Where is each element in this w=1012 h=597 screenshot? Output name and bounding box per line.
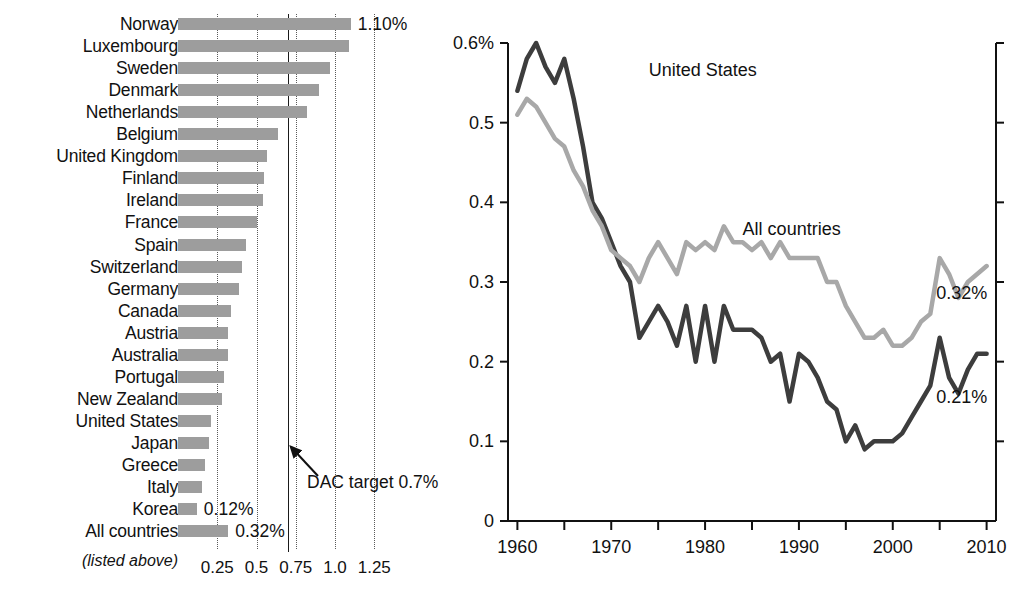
bar-category-label: Sweden xyxy=(116,58,178,78)
bar-chart-row: New Zealand xyxy=(0,389,440,409)
bar-category-label: Germany xyxy=(107,279,178,299)
bar-rect xyxy=(178,216,257,228)
figure-root: Norway1.10%LuxembourgSwedenDenmarkNether… xyxy=(0,0,1012,597)
bar-x-tick-label: 0.75 xyxy=(279,558,312,578)
bar-category-label: France xyxy=(125,212,178,232)
bar-category-label: Japan xyxy=(131,433,178,453)
bar-category-label: Greece xyxy=(122,455,178,475)
bar-chart-row: Finland xyxy=(0,168,440,188)
bar-rect xyxy=(178,261,242,273)
bar-chart-row: Switzerland xyxy=(0,257,440,277)
bar-chart-row: France xyxy=(0,212,440,232)
bar-category-label: United States xyxy=(76,411,178,431)
line-end-value-label: 0.21% xyxy=(936,387,987,408)
bar-chart-row: Portugal xyxy=(0,367,440,387)
bar-rect xyxy=(178,283,239,295)
bar-chart-row: Germany xyxy=(0,279,440,299)
bar-category-label: Denmark xyxy=(108,80,178,100)
bar-rect xyxy=(178,40,349,52)
line-y-tick-label: 0.5 xyxy=(469,112,494,133)
bar-category-label: Spain xyxy=(134,235,178,255)
line-y-tick-label: 0.3 xyxy=(469,272,494,293)
line-x-tick-label: 1960 xyxy=(497,537,537,558)
line-y-tick-label: 0 xyxy=(484,511,494,532)
line-series-united-states xyxy=(517,43,986,449)
bar-category-label: Korea xyxy=(132,499,178,519)
line-y-tick-label: 0.2 xyxy=(469,351,494,372)
bar-chart-row: All countries0.32% xyxy=(0,521,440,541)
bar-category-label: New Zealand xyxy=(77,389,178,409)
bar-category-label: All countries xyxy=(85,521,178,541)
bar-chart-row: Sweden xyxy=(0,58,440,78)
bar-rect xyxy=(178,327,228,339)
bar-category-label: Portugal xyxy=(114,367,178,387)
line-y-tick-label: 0.1 xyxy=(469,431,494,452)
bar-x-tick-label: 0.25 xyxy=(201,558,234,578)
bar-rect xyxy=(178,525,228,537)
bar-value-label: 0.32% xyxy=(235,521,285,541)
bar-rect xyxy=(178,393,222,405)
bar-chart-row: Ireland xyxy=(0,190,440,210)
dac-target-label: DAC target 0.7% xyxy=(307,472,438,493)
bar-rect xyxy=(178,194,263,206)
bar-category-label: Italy xyxy=(147,477,178,497)
bar-category-label: Switzerland xyxy=(90,257,178,277)
bar-chart-row: Norway1.10% xyxy=(0,14,440,34)
bar-chart-row: Canada xyxy=(0,301,440,321)
bar-category-label: Ireland xyxy=(126,190,178,210)
line-chart-series xyxy=(517,43,986,449)
line-x-tick-label: 1980 xyxy=(685,537,725,558)
bar-x-tick-label: 1.25 xyxy=(358,558,391,578)
bar-category-label: Belgium xyxy=(116,124,178,144)
line-chart-svg xyxy=(440,0,1012,597)
line-chart-panel: 00.10.20.30.40.50.6% 1960197019801990200… xyxy=(440,0,1012,597)
bar-chart-row: Japan xyxy=(0,433,440,453)
line-end-value-label: 0.32% xyxy=(936,283,987,304)
line-x-tick-label: 1970 xyxy=(591,537,631,558)
bar-rect xyxy=(178,84,319,96)
bar-chart-row: Netherlands xyxy=(0,102,440,122)
line-series-label: United States xyxy=(649,60,757,81)
bar-value-label: 1.10% xyxy=(358,14,408,34)
bar-category-label: Austria xyxy=(125,323,178,343)
bar-x-tick-label: 1.0 xyxy=(323,558,347,578)
line-series-label: All countries xyxy=(743,219,841,240)
bar-category-label: Canada xyxy=(118,301,178,321)
bar-chart-row: United Kingdom xyxy=(0,146,440,166)
bar-chart-row: Denmark xyxy=(0,80,440,100)
bar-chart-row: Korea0.12% xyxy=(0,499,440,519)
bar-value-label: 0.12% xyxy=(204,499,254,519)
bar-chart-footnote: (listed above) xyxy=(82,552,178,570)
bar-rect xyxy=(178,305,231,317)
bar-category-label: Finland xyxy=(122,168,178,188)
bar-rect xyxy=(178,128,278,140)
bar-chart-row: Spain xyxy=(0,235,440,255)
bar-rect xyxy=(178,371,224,383)
bar-rect xyxy=(178,415,211,427)
bar-rect xyxy=(178,18,351,30)
bar-category-label: Luxembourg xyxy=(83,36,178,56)
bar-category-label: Netherlands xyxy=(86,102,178,122)
bar-rect xyxy=(178,106,307,118)
bar-chart-panel: Norway1.10%LuxembourgSwedenDenmarkNether… xyxy=(0,0,440,597)
line-x-tick-label: 2000 xyxy=(873,537,913,558)
bar-rect xyxy=(178,150,267,162)
bar-category-label: United Kingdom xyxy=(56,146,178,166)
bar-chart-row: Luxembourg xyxy=(0,36,440,56)
bar-rect xyxy=(178,172,264,184)
bar-chart-row: Australia xyxy=(0,345,440,365)
bar-x-tick-label: 0.5 xyxy=(245,558,269,578)
bar-category-label: Norway xyxy=(120,14,178,34)
bar-rect xyxy=(178,62,330,74)
bar-rect xyxy=(178,239,246,251)
line-y-tick-label: 0.4 xyxy=(469,192,494,213)
bar-rect xyxy=(178,481,202,493)
line-y-tick-label: 0.6% xyxy=(453,33,494,54)
line-x-tick-label: 1990 xyxy=(779,537,819,558)
bar-chart-row: Belgium xyxy=(0,124,440,144)
bar-chart-row: United States xyxy=(0,411,440,431)
line-x-tick-label: 2010 xyxy=(967,537,1007,558)
bar-rect xyxy=(178,349,228,361)
bar-rect xyxy=(178,437,209,449)
bar-chart-row: Austria xyxy=(0,323,440,343)
